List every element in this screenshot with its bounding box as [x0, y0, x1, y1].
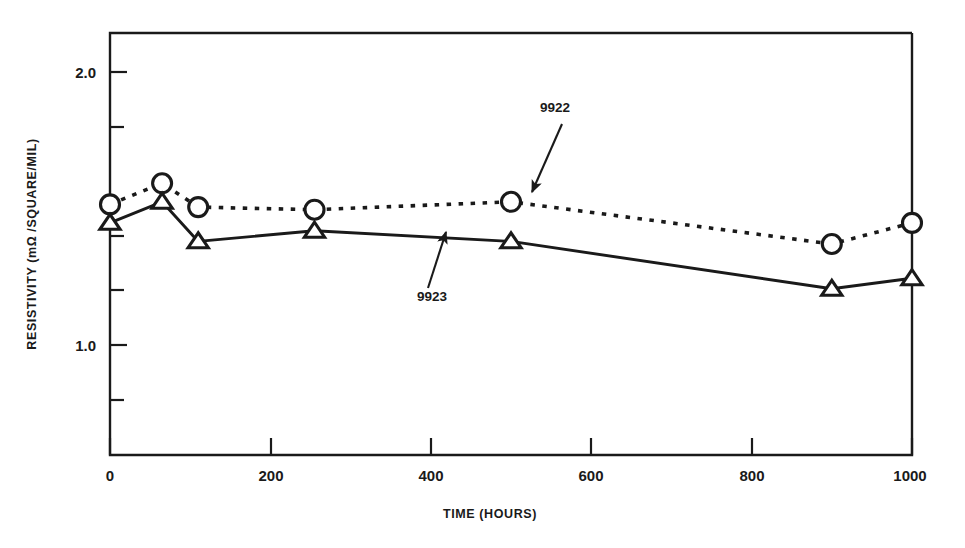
- series-label-9923: 9923: [417, 289, 448, 304]
- annotation-arrow-9922: [532, 124, 562, 192]
- y-tick-label-lower: 1.0: [75, 337, 96, 354]
- chart-figure: 2.0 1.0 RESISTIVITY (mΩ /SQUARE/MIL) 0 2…: [0, 0, 965, 548]
- data-point-9923-255: [304, 222, 324, 237]
- data-point-9922-900: [822, 235, 841, 254]
- y-axis-title: RESISTIVITY (mΩ /SQUARE/MIL): [25, 138, 39, 349]
- series-label-9922: 9922: [540, 100, 570, 115]
- data-point-9922-0: [101, 195, 120, 214]
- x-tick-label-600: 600: [578, 467, 603, 484]
- data-point-9923-0: [100, 214, 120, 229]
- data-point-9922-255: [305, 200, 324, 219]
- x-axis-title: TIME (HOURS): [443, 507, 537, 521]
- resistivity-vs-time-line-chart: 2.0 1.0 RESISTIVITY (mΩ /SQUARE/MIL) 0 2…: [0, 0, 965, 548]
- x-tick-label-800: 800: [739, 467, 764, 484]
- data-point-9923-1000: [902, 270, 922, 285]
- x-tick-label-1000: 1000: [893, 467, 926, 484]
- annotation-9923: 9923: [417, 232, 448, 304]
- data-point-9922-65: [153, 174, 172, 193]
- data-point-9922-1000: [903, 213, 922, 232]
- annotation-arrow-9923: [428, 232, 446, 288]
- data-point-9922-110: [189, 198, 208, 217]
- data-point-9923-65: [152, 193, 172, 208]
- annotation-9922: 9922: [532, 100, 570, 192]
- y-axis-ticks: [110, 72, 127, 400]
- x-axis-ticks: [110, 438, 912, 455]
- x-tick-label-400: 400: [418, 467, 443, 484]
- y-tick-label-upper: 2.0: [75, 64, 96, 81]
- x-tick-label-200: 200: [258, 467, 283, 484]
- x-tick-label-0: 0: [106, 467, 114, 484]
- data-point-9922-500: [502, 192, 521, 211]
- x-axis-tick-labels: 0 200 400 600 800 1000: [106, 467, 927, 484]
